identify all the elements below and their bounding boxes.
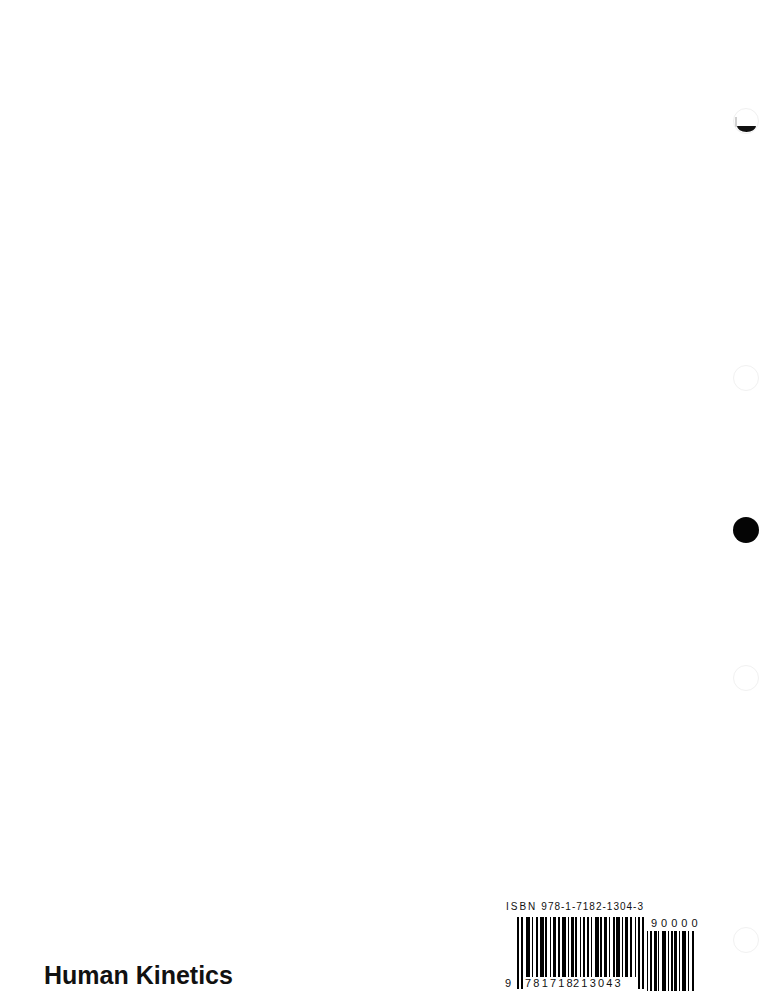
punch-hole-faint-icon — [733, 365, 759, 391]
addon-bars — [647, 931, 694, 991]
publisher-name: Human Kinetics — [44, 960, 233, 990]
isbn-prefix: ISBN — [506, 901, 537, 912]
punch-hole-solid-icon — [733, 517, 759, 543]
punch-hole-faint-icon — [733, 927, 759, 953]
punch-hole-faint-icon — [733, 665, 759, 691]
isbn-label: ISBN978-1-7182-1304-3 — [506, 901, 644, 913]
price-addon-barcode: 90000 — [647, 917, 709, 991]
punch-hole-partial-icon — [733, 108, 759, 134]
hole-edge-shadow — [735, 117, 737, 127]
isbn-number: 978-1-7182-1304-3 — [541, 901, 644, 912]
back-cover-page: Human Kinetics ISBN978-1-7182-1304-3 — [0, 0, 778, 992]
isbn-barcode: ISBN978-1-7182-1304-3 — [505, 901, 715, 991]
addon-digits: 90000 — [651, 917, 702, 929]
ean-lead-digit: 9 — [505, 977, 513, 989]
ean-right-digits: 213043 — [573, 977, 623, 989]
ean-left-digits: 781718 — [525, 977, 575, 989]
